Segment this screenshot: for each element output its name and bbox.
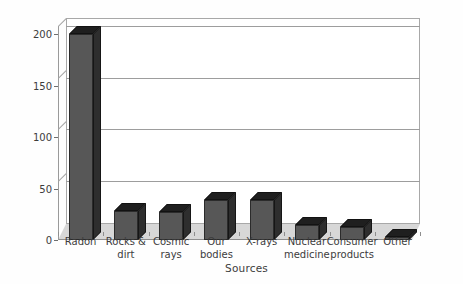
gridline — [66, 78, 420, 79]
bar-side-face — [228, 192, 236, 240]
x-axis-title: Sources — [0, 262, 463, 274]
y-axis-tick-group: 050100150200 — [12, 0, 58, 284]
gridline — [66, 129, 420, 130]
y-axis-tick-label: 100 — [18, 132, 52, 143]
gridline — [66, 26, 420, 27]
bar-front-face — [204, 200, 228, 240]
x-axis-tick-labels: RadonRocks & dirtCosmic raysOur bodiesX-… — [58, 236, 428, 264]
y-axis-tick-label: 150 — [18, 80, 52, 91]
y-axis-tick-label: 0 — [18, 235, 52, 246]
bar-radon — [69, 26, 93, 240]
plot-back-wall — [66, 18, 420, 224]
y-axis-tick-label: 200 — [18, 29, 52, 40]
bar-rocks-dirt — [114, 203, 138, 240]
y-axis-line — [58, 26, 59, 240]
bar-front-face — [250, 200, 274, 240]
plot-area — [58, 18, 428, 240]
bar-cosmic-rays — [159, 204, 183, 240]
x-axis-label-other: Other — [371, 236, 424, 249]
y-axis-tick-label: 50 — [18, 183, 52, 194]
bar-front-face — [69, 34, 93, 240]
bar-chart: Dose ( mrem/a ) 050100150200 RadonRocks … — [0, 0, 463, 284]
bar-our-bodies — [204, 192, 228, 240]
gridline — [66, 181, 420, 182]
bar-side-face — [93, 26, 101, 240]
bar-x-rays — [250, 192, 274, 240]
x-axis-tick-mark — [420, 232, 421, 236]
